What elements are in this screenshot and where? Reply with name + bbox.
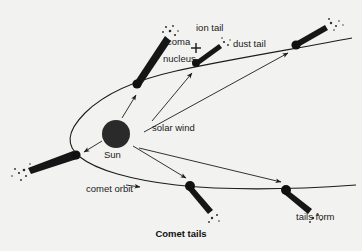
label-comet-orbit: comet orbit	[86, 183, 133, 194]
comet-perihelion-left	[11, 150, 80, 181]
dust-tail-specks	[221, 37, 231, 46]
comet-nucleus	[71, 150, 80, 159]
tail-specks	[11, 163, 31, 181]
solar-wind-ray-2	[152, 73, 192, 121]
label-nucleus: nucleus	[163, 53, 196, 64]
comet-perihelion-upper	[191, 37, 231, 67]
label-solar-wind: solar wind	[152, 122, 195, 133]
solar-wind-ray-1	[122, 95, 136, 118]
solar-wind-rays	[84, 53, 288, 182]
comet-nucleus	[185, 181, 195, 191]
tail-specks	[328, 18, 344, 31]
label-sun: Sun	[104, 149, 121, 160]
solar-wind-ray-left	[84, 141, 102, 152]
sun-body	[102, 120, 130, 148]
tail-specks	[208, 214, 220, 223]
solar-wind-ray-4	[133, 146, 186, 178]
solar-wind-ray-3	[144, 53, 288, 132]
label-ion-tail: ion tail	[196, 22, 223, 33]
tail-specks	[162, 25, 179, 36]
label-dust-tail: dust tail	[233, 38, 266, 49]
label-tails-form: tails form	[296, 211, 335, 222]
comet-nucleus	[132, 79, 141, 88]
ion-tail-plus-icon	[191, 43, 201, 53]
comet-nucleus	[281, 185, 291, 195]
figure-caption: Comet tails	[155, 228, 206, 239]
sun-disc	[102, 120, 130, 148]
comet-tail	[28, 151, 77, 174]
comet-tails-diagram: coma nucleus ion tail dust tail solar wi…	[0, 0, 362, 251]
comet-tails-figure: coma nucleus ion tail dust tail solar wi…	[0, 0, 362, 251]
label-coma: coma	[167, 36, 191, 47]
comet-nucleus	[291, 40, 300, 49]
solar-wind-ray-5	[139, 148, 281, 182]
comet-tail	[188, 187, 213, 214]
comet-dust-tail	[197, 44, 222, 64]
